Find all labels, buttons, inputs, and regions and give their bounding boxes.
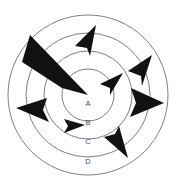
ring-label-d: D: [85, 157, 91, 166]
ring-label-a: A: [85, 99, 90, 108]
ring-label-c: C: [85, 137, 91, 146]
diagram-canvas: A B C D: [0, 0, 180, 188]
concentric-ring-diagram: A B C D: [0, 0, 180, 188]
ring-label-b: B: [85, 118, 90, 127]
